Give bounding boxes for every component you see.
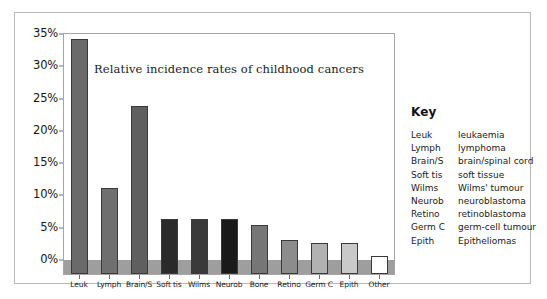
x-axis: LeukLymphBrain/SSoft tisWilmsNeurobBoneR… xyxy=(63,275,395,299)
x-tick-label: Other xyxy=(369,281,390,289)
key-entry-abbr: Brain/S xyxy=(411,155,458,168)
bar-brain-s xyxy=(131,106,148,274)
key-entry: EpithEpitheliomas xyxy=(411,235,547,248)
bar-germ-c xyxy=(311,243,328,274)
key-rows: LeukleukaemiaLymphlymphomaBrain/Sbrain/s… xyxy=(411,129,547,248)
key-entry-abbr: Soft tis xyxy=(411,169,458,182)
x-tick-label: Bone xyxy=(250,281,269,289)
bar-other xyxy=(371,256,388,274)
key-heading: Key xyxy=(411,105,547,119)
key-entry: Germ Cgerm-cell tumour xyxy=(411,221,547,234)
key-entry: Retinoretinoblastoma xyxy=(411,208,547,221)
key-entry-abbr: Epith xyxy=(411,235,458,248)
key-entry: Soft tissoft tissue xyxy=(411,169,547,182)
key-entry-label: germ-cell tumour xyxy=(458,221,547,234)
x-tick-mark xyxy=(229,275,230,279)
key-entry-label: retinoblastoma xyxy=(458,208,547,221)
key-entry-abbr: Neurob xyxy=(411,195,458,208)
plot-panel: Relative incidence rates of childhood ca… xyxy=(63,33,395,275)
key-entry-abbr: Retino xyxy=(411,208,458,221)
key-entry-abbr: Wilms xyxy=(411,182,458,195)
x-tick-mark xyxy=(379,275,380,279)
figure-frame: 0%5%10%15%20%25%30%35% Relative incidenc… xyxy=(14,12,531,284)
y-tick-label: 5% xyxy=(40,222,58,234)
y-tick-label: 10% xyxy=(33,190,58,202)
key-entry-label: Epitheliomas xyxy=(458,235,547,248)
x-tick-mark xyxy=(289,275,290,279)
bar-leuk xyxy=(71,39,88,274)
key-entry-label: leukaemia xyxy=(458,129,547,142)
x-tick-mark xyxy=(319,275,320,279)
x-tick-mark xyxy=(199,275,200,279)
x-tick-label: Retino xyxy=(277,281,300,289)
bars-layer xyxy=(64,34,394,274)
y-tick-label: 0% xyxy=(40,254,58,266)
bar-epith xyxy=(341,243,358,274)
y-axis: 0%5%10%15%20%25%30%35% xyxy=(29,25,63,277)
bar-wilms xyxy=(191,219,208,274)
key-entry-abbr: Lymph xyxy=(411,142,458,155)
y-tick-label: 25% xyxy=(33,93,58,105)
key-entry-label: Wilms' tumour xyxy=(458,182,547,195)
bar-retino xyxy=(281,240,298,274)
key-entry: Neurobneuroblastoma xyxy=(411,195,547,208)
x-tick-mark xyxy=(79,275,80,279)
key-entry: WilmsWilms' tumour xyxy=(411,182,547,195)
y-tick-label: 35% xyxy=(33,28,58,40)
legend-key: Key LeukleukaemiaLymphlymphomaBrain/Sbra… xyxy=(411,105,547,248)
key-entry: Brain/Sbrain/spinal cord xyxy=(411,155,547,168)
x-tick-mark xyxy=(259,275,260,279)
chart-area: 0%5%10%15%20%25%30%35% Relative incidenc… xyxy=(29,25,401,297)
key-entry: Lymphlymphoma xyxy=(411,142,547,155)
x-tick-mark xyxy=(109,275,110,279)
key-entry-label: lymphoma xyxy=(458,142,547,155)
key-entry-abbr: Germ C xyxy=(411,221,458,234)
bar-neurob xyxy=(221,219,238,274)
bar-soft-tis xyxy=(161,219,178,274)
x-tick-mark xyxy=(349,275,350,279)
x-tick-label: Lymph xyxy=(97,281,121,289)
x-tick-label: Brain/S xyxy=(126,281,152,289)
x-tick-label: Wilms xyxy=(188,281,210,289)
bar-lymph xyxy=(101,188,118,274)
y-tick-label: 20% xyxy=(33,125,58,137)
x-tick-label: Leuk xyxy=(70,281,87,289)
key-entry: Leukleukaemia xyxy=(411,129,547,142)
x-tick-label: Epith xyxy=(340,281,359,289)
key-entry-label: soft tissue xyxy=(458,169,547,182)
key-entry-label: brain/spinal cord xyxy=(458,155,547,168)
x-tick-label: Soft tis xyxy=(156,281,181,289)
x-tick-mark xyxy=(169,275,170,279)
x-tick-label: Germ C xyxy=(305,281,333,289)
x-tick-mark xyxy=(139,275,140,279)
y-tick-label: 30% xyxy=(33,61,58,73)
key-entry-label: neuroblastoma xyxy=(458,195,547,208)
x-tick-label: Neurob xyxy=(216,281,243,289)
y-tick-label: 15% xyxy=(33,157,58,169)
bar-bone xyxy=(251,225,268,274)
key-entry-abbr: Leuk xyxy=(411,129,458,142)
